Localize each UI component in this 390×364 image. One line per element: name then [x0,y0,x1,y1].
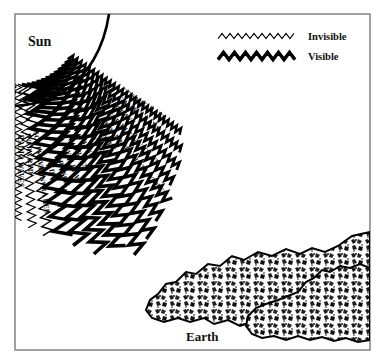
electromagnetic-spectrum-figure: Sun Earth COSMIC RAYSGAMMA RAYSX-RAYSFAR… [0,0,390,364]
sun-label: Sun [28,34,52,49]
ray-label: ELECTRIC WAVES [3,136,16,203]
earth-label: Earth [186,329,219,344]
legend-label: Visible [308,51,339,62]
ray-label: RADIO WAVES [16,135,24,187]
diagram-canvas: Sun Earth COSMIC RAYSGAMMA RAYSX-RAYSFAR… [0,0,390,364]
legend-label: Invisible [308,31,347,42]
